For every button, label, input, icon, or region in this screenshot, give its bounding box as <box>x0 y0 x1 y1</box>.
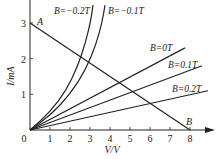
series-line-loadline <box>30 23 190 130</box>
series-label: B=0.2T <box>172 84 202 94</box>
x-axis-arrow <box>205 127 215 133</box>
series-label: B=−0.2T <box>54 6 90 16</box>
series-line-b0t <box>30 48 185 130</box>
x-tick-label: 2 <box>68 133 73 144</box>
x-tick-label: 4 <box>108 133 113 144</box>
x-tick-label: 3 <box>88 133 93 144</box>
labels-group: 123456781230V/VI/mAB=−0.2TB=−0.1TB=0TB=0… <box>5 6 202 155</box>
x-tick-label: 1 <box>48 133 53 144</box>
series-label: B=0T <box>150 43 173 53</box>
y-axis-label: I/mA <box>5 65 16 86</box>
y-tick-label: 1 <box>21 89 26 100</box>
origin-label: 0 <box>22 133 27 144</box>
x-tick-label: 5 <box>128 133 133 144</box>
series-label: B=0.1T <box>168 60 198 70</box>
y-tick-label: 2 <box>21 54 26 65</box>
point-label-a: A <box>36 16 44 27</box>
point-label-b: B <box>186 116 192 127</box>
series-label: B=−0.1T <box>108 6 144 16</box>
x-tick-label: 6 <box>148 133 153 144</box>
y-tick-label: 3 <box>21 18 26 29</box>
chart: 123456781230V/VI/mAB=−0.2TB=−0.1TB=0TB=0… <box>0 0 223 159</box>
x-tick-label: 7 <box>168 133 173 144</box>
x-axis-label: V/V <box>105 144 122 155</box>
x-tick-label: 8 <box>188 133 193 144</box>
